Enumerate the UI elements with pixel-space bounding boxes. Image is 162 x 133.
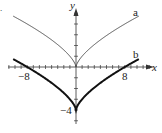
y-axis-label: y <box>70 0 75 11</box>
x-tick-label-8: 8 <box>122 71 128 82</box>
corner-label: . <box>0 4 2 13</box>
curve-a-label: a <box>133 7 138 18</box>
curve-b-label: b <box>133 49 139 60</box>
plot-area <box>0 0 162 133</box>
x-axis-label: x <box>152 62 157 73</box>
x-tick-label-neg8: −8 <box>18 71 30 82</box>
y-tick-label-neg4: −4 <box>60 105 72 116</box>
